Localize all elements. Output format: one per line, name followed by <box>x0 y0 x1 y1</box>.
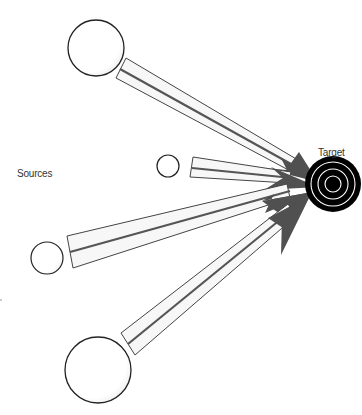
stray-dot <box>0 299 2 301</box>
source-node-3 <box>31 242 63 274</box>
source-node-2 <box>157 155 179 177</box>
source-node-4 <box>65 337 131 403</box>
sources-to-target-diagram <box>0 0 362 415</box>
source-node-1 <box>68 20 124 76</box>
target-bullseye-icon <box>305 156 361 212</box>
target-label: Target <box>318 147 345 158</box>
sources-label: Sources <box>17 168 52 179</box>
